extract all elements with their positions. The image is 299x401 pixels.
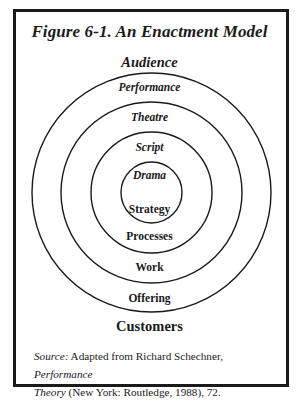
label-strategy: Strategy — [0, 203, 299, 215]
label-customers: Customers — [0, 318, 299, 335]
ring-performance-offering — [32, 73, 271, 312]
ring-theatre-work — [61, 102, 242, 283]
label-work: Work — [0, 261, 299, 273]
source-caption: Source: Adapted from Richard Schechner, … — [34, 347, 284, 401]
source-book-title-1: Performance — [34, 368, 92, 380]
source-prefix: Source: — [34, 350, 68, 362]
source-book-title-2: Theory — [34, 386, 66, 398]
label-theatre: Theatre — [0, 111, 299, 123]
label-drama: Drama — [0, 169, 299, 181]
source-text-1: Adapted from Richard Schechner, — [68, 350, 223, 362]
label-script: Script — [0, 141, 299, 153]
label-processes: Processes — [0, 230, 299, 242]
label-offering: Offering — [0, 292, 299, 304]
source-text-2: (New York: Routledge, 1988), 72. — [66, 386, 221, 398]
label-performance: Performance — [0, 81, 299, 93]
